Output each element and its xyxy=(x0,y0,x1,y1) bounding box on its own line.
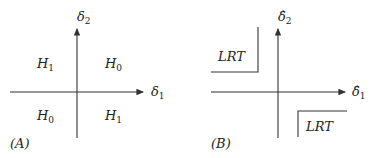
delta1-hat-axis-label: δ̂1 xyxy=(352,84,366,101)
panel-b-caption: (B) xyxy=(211,136,231,151)
region-top-right-label: H0 xyxy=(104,56,122,73)
lrt-top-left-label: LRT xyxy=(217,49,246,64)
delta2-hat-axis-label: δ̂2 xyxy=(278,9,292,26)
panel-a-caption: (A) xyxy=(10,136,30,151)
region-top-left-label: H1 xyxy=(36,56,54,73)
hypothesis-regions-diagram: δ2 δ1 H1 H0 H0 H1 (A) δ̂2 δ̂1 LRT LR xyxy=(0,0,375,158)
delta1-axis-label: δ1 xyxy=(151,84,165,101)
region-bottom-right-label: H1 xyxy=(104,108,122,125)
lrt-bottom-right-label: LRT xyxy=(305,119,334,134)
panel-a: δ2 δ1 H1 H0 H0 H1 (A) xyxy=(10,9,165,151)
panel-b: δ̂2 δ̂1 LRT LRT (B) xyxy=(211,9,366,151)
delta2-axis-label: δ2 xyxy=(77,9,91,26)
region-bottom-left-label: H0 xyxy=(36,108,54,125)
